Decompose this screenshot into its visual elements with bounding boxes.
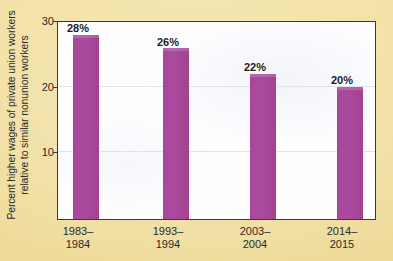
bar-highlight [337,87,363,90]
x-category-line-2: 2004 [231,238,279,251]
x-category-line-1: 2014– [327,225,358,237]
plot-texture [58,22,375,219]
bar-1993-1994 [163,48,189,219]
y-tick-label-30: 30 [32,15,54,27]
x-category-2003-2004: 2003– 2004 [231,225,279,251]
bar-2014-2015 [337,87,363,219]
bar-value-label-2003-2004: 22% [233,61,277,73]
y-axis-title-line-1: Percent higher wages of private union wo… [6,10,19,219]
x-category-2014-2015: 2014– 2015 [318,225,366,251]
x-category-1983-1984: 1983– 1984 [54,225,102,251]
bar-value-label-1983-1984: 28% [56,22,100,34]
gridline-20 [58,86,375,87]
bar-highlight [163,48,189,51]
bar-1983-1984 [73,35,99,219]
x-category-line-1: 1983– [63,225,94,237]
x-category-line-1: 1993– [153,225,184,237]
plot-area [57,21,376,220]
gridline-10 [58,151,375,152]
y-axis-ticks: 30 20 10 [30,0,54,261]
x-category-line-2: 1984 [54,238,102,251]
y-tick-label-20: 20 [32,81,54,93]
x-category-line-1: 2003– [240,225,271,237]
x-category-line-2: 2015 [318,238,366,251]
bar-value-label-1993-1994: 26% [146,36,190,48]
bar-highlight [250,74,276,77]
bar-2003-2004 [250,74,276,219]
x-category-1993-1994: 1993– 1994 [144,225,192,251]
chart-figure: Percent higher wages of private union wo… [0,0,393,261]
x-category-line-2: 1994 [144,238,192,251]
y-tick-label-10: 10 [32,146,54,158]
bar-value-label-2014-2015: 20% [320,74,364,86]
bar-highlight [73,35,99,38]
